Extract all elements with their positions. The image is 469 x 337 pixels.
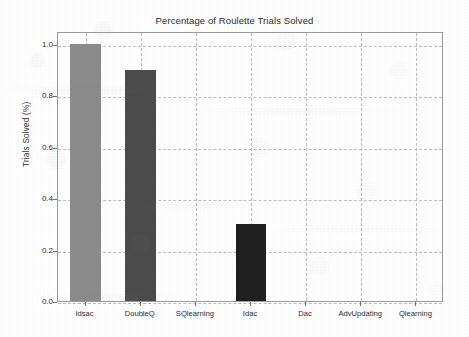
plot-area — [57, 32, 443, 302]
x-tick-label-AdvUpdating: AdvUpdating — [339, 309, 382, 318]
plot-inner — [58, 33, 442, 301]
x-tick-mark-Idac — [250, 302, 251, 306]
x-tick-label-Dac: Dac — [298, 309, 312, 318]
x-tick-mark-DoubleQ — [140, 302, 141, 306]
y-tick-label-0.4: 0.4 — [33, 194, 53, 203]
x-tick-mark-Idsac — [85, 302, 86, 306]
bar-chart-figure: Percentage of Roulette Trials Solved Tri… — [0, 0, 469, 337]
x-tick-mark-Dac — [305, 302, 306, 306]
y-axis-title: Trials Solved (%) — [22, 102, 31, 167]
x-tick-label-SQlearning: SQlearning — [176, 309, 214, 318]
x-tick-label-Qlearning: Qlearning — [399, 309, 432, 318]
gridline-y-0.6 — [58, 149, 442, 150]
gridline-y-0.8 — [58, 97, 442, 98]
x-tick-label-Idac: Idac — [243, 309, 257, 318]
x-tick-mark-SQlearning — [195, 302, 196, 306]
bar-Idsac — [70, 44, 101, 301]
y-tick-label-1.0: 1.0 — [33, 40, 53, 49]
gridline-y-0.4 — [58, 200, 442, 201]
x-tick-mark-Qlearning — [415, 302, 416, 306]
y-tick-label-0.0: 0.0 — [33, 297, 53, 306]
gridline-x-Dac — [306, 33, 307, 301]
gridline-x-SQlearning — [196, 33, 197, 301]
y-tick-label-0.2: 0.2 — [33, 246, 53, 255]
bar-DoubleQ — [125, 70, 156, 301]
gridline-x-Qlearning — [416, 33, 417, 301]
y-tick-label-0.8: 0.8 — [33, 91, 53, 100]
chart-title: Percentage of Roulette Trials Solved — [0, 15, 469, 26]
gridline-y-1.0 — [58, 46, 442, 47]
y-tick-mark-0.0 — [53, 302, 57, 303]
x-tick-label-DoubleQ: DoubleQ — [125, 309, 155, 318]
x-tick-mark-AdvUpdating — [360, 302, 361, 306]
bar-Idac — [236, 224, 267, 301]
gridline-x-AdvUpdating — [361, 33, 362, 301]
y-tick-label-0.6: 0.6 — [33, 143, 53, 152]
x-tick-label-Idsac: Idsac — [75, 309, 93, 318]
